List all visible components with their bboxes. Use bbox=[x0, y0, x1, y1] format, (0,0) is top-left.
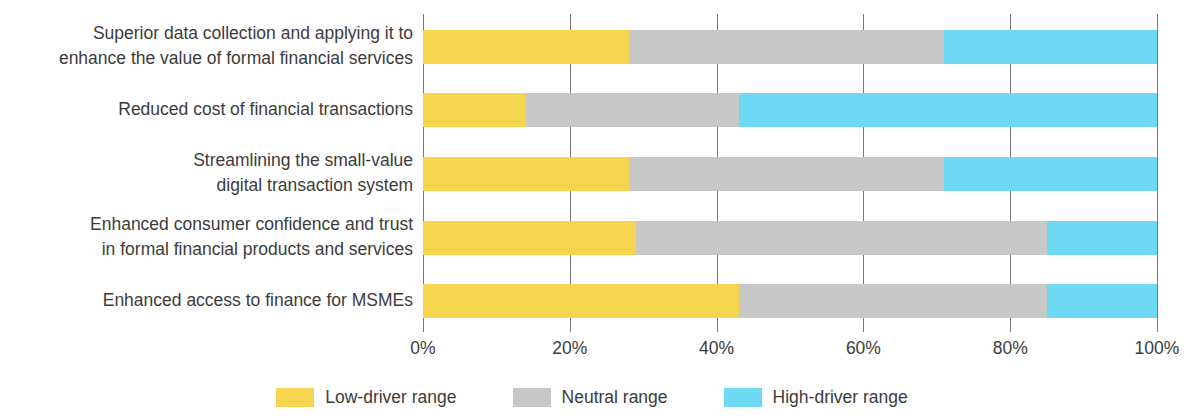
legend-swatch-icon bbox=[276, 388, 314, 407]
legend-label: Neutral range bbox=[562, 386, 668, 408]
bar-segment-neutral-range bbox=[629, 157, 945, 191]
bar-segment-neutral-range bbox=[629, 30, 945, 64]
x-tick-label: 100% bbox=[1135, 336, 1180, 360]
category-label: Enhanced consumer confidence and trust i… bbox=[3, 212, 413, 262]
x-tick-label: 80% bbox=[993, 336, 1028, 360]
bar-segment-low-driver-range bbox=[423, 284, 739, 318]
bar-segment-high-driver-range bbox=[944, 157, 1157, 191]
stacked-bar-chart: Superior data collection and applying it… bbox=[0, 0, 1184, 418]
bar-segment-low-driver-range bbox=[423, 30, 629, 64]
x-tick-label: 0% bbox=[410, 336, 435, 360]
bar-row bbox=[423, 30, 1157, 64]
bar-segment-high-driver-range bbox=[944, 30, 1157, 64]
bar-segment-high-driver-range bbox=[1047, 284, 1157, 318]
bar-segment-neutral-range bbox=[526, 93, 739, 127]
bar-row bbox=[423, 157, 1157, 191]
category-label: Superior data collection and applying it… bbox=[3, 21, 413, 71]
bar-segment-low-driver-range bbox=[423, 221, 636, 255]
bar-row bbox=[423, 284, 1157, 318]
category-label: Streamlining the small-value digital tra… bbox=[3, 148, 413, 198]
bar-segment-low-driver-range bbox=[423, 93, 526, 127]
chart-legend: Low-driver rangeNeutral rangeHigh-driver… bbox=[0, 386, 1184, 408]
legend-item-high-driver-range[interactable]: High-driver range bbox=[724, 386, 908, 408]
legend-label: Low-driver range bbox=[325, 386, 456, 408]
bar-segment-low-driver-range bbox=[423, 157, 629, 191]
x-tick-label: 60% bbox=[846, 336, 881, 360]
x-tick-label: 20% bbox=[552, 336, 587, 360]
legend-item-neutral-range[interactable]: Neutral range bbox=[513, 386, 668, 408]
bar-segment-neutral-range bbox=[636, 221, 1047, 255]
bar-segment-high-driver-range bbox=[1047, 221, 1157, 255]
category-label: Enhanced access to finance for MSMEs bbox=[3, 288, 413, 313]
bar-segment-high-driver-range bbox=[739, 93, 1157, 127]
legend-swatch-icon bbox=[724, 388, 762, 407]
gridline-100pct bbox=[1157, 14, 1158, 332]
bar-segment-neutral-range bbox=[739, 284, 1047, 318]
legend-item-low-driver-range[interactable]: Low-driver range bbox=[276, 386, 456, 408]
legend-swatch-icon bbox=[513, 388, 551, 407]
x-tick-label: 40% bbox=[699, 336, 734, 360]
plot-area bbox=[423, 14, 1157, 332]
legend-label: High-driver range bbox=[773, 386, 908, 408]
bar-row bbox=[423, 221, 1157, 255]
x-axis-tick-labels: 0%20%40%60%80%100% bbox=[423, 336, 1157, 362]
bar-row bbox=[423, 93, 1157, 127]
category-label-axis: Superior data collection and applying it… bbox=[0, 14, 413, 332]
category-label: Reduced cost of financial transactions bbox=[3, 97, 413, 122]
